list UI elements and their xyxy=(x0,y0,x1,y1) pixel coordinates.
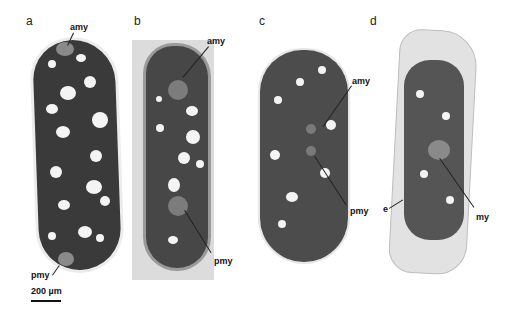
vacuole xyxy=(196,160,204,168)
mycetome-d xyxy=(428,140,450,160)
vacuole xyxy=(156,124,164,132)
vacuole xyxy=(446,196,454,204)
label-amy-c: amy xyxy=(352,76,370,86)
label-pmy-a: pmy xyxy=(31,270,50,280)
panel-letter-d: d xyxy=(370,14,377,28)
label-pmy-b: pmy xyxy=(214,256,233,266)
vacuole xyxy=(100,196,110,206)
posterior-mycetome-c xyxy=(306,146,316,156)
label-pmy-c: pmy xyxy=(350,206,369,216)
scale-bar xyxy=(31,300,61,302)
vacuole xyxy=(58,200,70,210)
vacuole xyxy=(50,166,62,178)
label-e-d: e xyxy=(383,204,388,214)
label-amy-a: amy xyxy=(70,22,88,32)
anterior-mycetome-b xyxy=(168,80,188,100)
vacuole xyxy=(76,54,86,62)
vacuole xyxy=(178,152,190,164)
vacuole xyxy=(168,178,180,192)
vacuole xyxy=(84,76,96,88)
anterior-mycetome-c xyxy=(306,124,316,134)
vacuole xyxy=(278,220,286,228)
vacuole xyxy=(416,90,424,98)
vacuole xyxy=(48,60,56,68)
vacuole xyxy=(156,96,162,102)
vacuole xyxy=(168,236,178,244)
vacuole xyxy=(56,126,70,138)
panel-letter-c: c xyxy=(259,14,265,28)
vacuole xyxy=(60,86,76,100)
vacuole xyxy=(186,106,198,116)
vacuole xyxy=(270,150,280,160)
section-image-a xyxy=(32,39,122,272)
vacuole xyxy=(78,226,92,238)
label-amy-b: amy xyxy=(207,36,225,46)
vacuole xyxy=(326,120,336,130)
label-my-d: my xyxy=(476,212,489,222)
panel-letter-a: a xyxy=(26,14,33,28)
anterior-mycetome-a xyxy=(56,42,74,56)
vacuole xyxy=(442,112,450,120)
vacuole xyxy=(96,234,104,242)
scale-bar-label: 200 µm xyxy=(31,286,62,296)
vacuole xyxy=(186,130,200,144)
vacuole xyxy=(286,192,298,202)
vacuole xyxy=(318,66,326,74)
vacuole xyxy=(48,232,56,240)
vacuole xyxy=(420,170,428,178)
vacuole xyxy=(92,112,108,128)
vacuole xyxy=(46,104,58,114)
vacuole xyxy=(90,150,102,162)
vacuole xyxy=(86,180,102,194)
leader-line-pmy-a xyxy=(52,265,60,275)
posterior-mycetome-a xyxy=(58,252,74,266)
panel-letter-b: b xyxy=(134,14,141,28)
vacuole xyxy=(296,78,304,86)
vacuole xyxy=(274,96,282,104)
